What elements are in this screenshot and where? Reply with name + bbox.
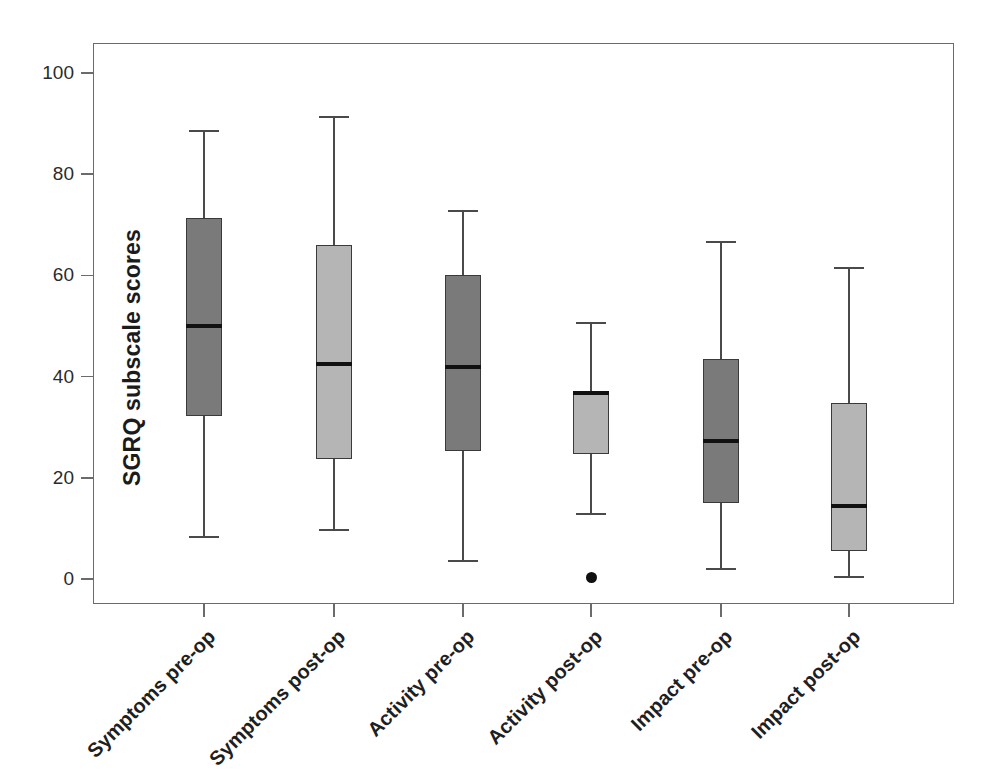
y-tick-20: 20	[81, 477, 94, 479]
y-tick-label: 60	[53, 264, 74, 286]
x-tick-1	[333, 603, 335, 617]
median-line	[831, 504, 867, 509]
y-tick-label: 0	[63, 568, 74, 590]
y-tick-0: 0	[81, 578, 94, 580]
x-tick-label-activity-post-op: Activity post-op	[483, 625, 607, 749]
x-tick-label-symptoms-pre-op: Symptoms pre-op	[83, 625, 221, 763]
box-iqr	[831, 403, 867, 551]
lower-whisker-cap	[834, 576, 864, 578]
y-tick-100: 100	[81, 72, 94, 74]
plot-area: 020406080100 Symptoms pre-opSymptoms pos…	[94, 44, 953, 603]
x-tick-4	[720, 603, 722, 617]
x-tick-label-activity-pre-op: Activity pre-op	[363, 625, 479, 741]
y-tick-label: 100	[42, 62, 74, 84]
upper-whisker-stem	[848, 267, 850, 403]
y-tick-80: 80	[81, 173, 94, 175]
x-tick-0	[203, 603, 205, 617]
x-tick-label-impact-pre-op: Impact pre-op	[627, 625, 738, 736]
x-tick-label-symptoms-post-op: Symptoms post-op	[205, 625, 350, 770]
y-tick-40: 40	[81, 376, 94, 378]
box-plot-figure: SGRQ subscale scores 020406080100 Sympto…	[0, 0, 990, 771]
y-tick-label: 20	[53, 467, 74, 489]
y-tick-label: 40	[53, 366, 74, 388]
box-plot-impact-post-op	[94, 44, 953, 603]
x-tick-2	[462, 603, 464, 617]
x-tick-3	[590, 603, 592, 617]
y-tick-60: 60	[81, 275, 94, 277]
x-tick-label-impact-post-op: Impact post-op	[747, 625, 866, 744]
y-tick-label: 80	[53, 163, 74, 185]
plot-frame: SGRQ subscale scores 020406080100 Sympto…	[93, 43, 954, 604]
x-tick-5	[848, 603, 850, 617]
upper-whisker-cap	[834, 267, 864, 269]
lower-whisker-stem	[848, 551, 850, 576]
